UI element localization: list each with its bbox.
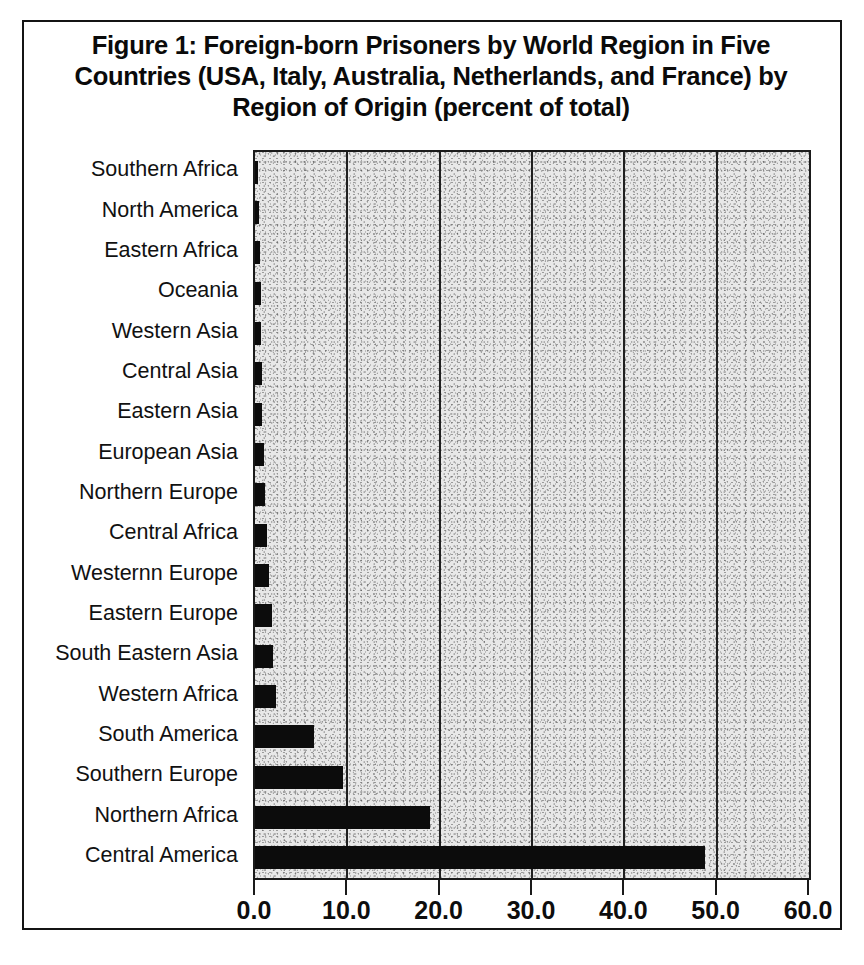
bar[interactable] [255, 766, 343, 789]
value-axis: 0.010.020.030.040.050.060.0 [253, 880, 813, 926]
bar[interactable] [255, 161, 258, 184]
bar[interactable] [255, 362, 262, 385]
category-label: Central Asia [18, 361, 238, 383]
category-label: European Asia [18, 442, 238, 464]
bar[interactable] [255, 725, 314, 748]
category-label: Western Africa [18, 684, 238, 706]
bar-row [255, 475, 809, 515]
axis-tick-label: 40.0 [578, 896, 668, 925]
bar[interactable] [255, 846, 705, 869]
category-label: South America [18, 724, 238, 746]
axis-tick-label: 30.0 [486, 896, 576, 925]
category-label: Central America [18, 845, 238, 867]
chart-body: Southern AfricaNorth AmericaEastern Afri… [24, 130, 840, 928]
bar-row [255, 394, 809, 434]
category-label: Central Africa [18, 522, 238, 544]
category-label: Eastern Europe [18, 603, 238, 625]
bar[interactable] [255, 685, 276, 708]
bar-row [255, 434, 809, 474]
page-title: Figure 1: Foreign-born Prisoners by Worl… [36, 30, 826, 123]
bar[interactable] [255, 806, 430, 829]
bar[interactable] [255, 322, 261, 345]
bar[interactable] [255, 241, 260, 264]
bar-row [255, 313, 809, 353]
axis-tick [530, 880, 532, 895]
bar-row [255, 515, 809, 555]
axis-tick-label: 20.0 [394, 896, 484, 925]
category-label: Northern Africa [18, 805, 238, 827]
category-axis: Southern AfricaNorth AmericaEastern Afri… [24, 150, 246, 880]
axis-tick [715, 880, 717, 895]
axis-tick-label: 0.0 [209, 896, 299, 925]
category-label: Southern Europe [18, 764, 238, 786]
bar[interactable] [255, 443, 264, 466]
category-label: Western Asia [18, 321, 238, 343]
axis-tick [438, 880, 440, 895]
bar-row [255, 838, 809, 878]
bar-row [255, 636, 809, 676]
bar-row [255, 717, 809, 757]
axis-tick [622, 880, 624, 895]
bar[interactable] [255, 524, 267, 547]
category-label: Southern Africa [18, 159, 238, 181]
bar[interactable] [255, 604, 272, 627]
bar[interactable] [255, 282, 261, 305]
bar-row [255, 757, 809, 797]
figure-frame: Figure 1: Foreign-born Prisoners by Worl… [22, 20, 842, 930]
category-label: Eastern Africa [18, 240, 238, 262]
bar-row [255, 354, 809, 394]
bar-row [255, 797, 809, 837]
bar[interactable] [255, 483, 265, 506]
bar[interactable] [255, 645, 273, 668]
bar-row [255, 555, 809, 595]
axis-tick-label: 50.0 [671, 896, 761, 925]
category-label: Eastern Asia [18, 401, 238, 423]
category-label: Oceania [18, 280, 238, 302]
bar[interactable] [255, 564, 269, 587]
bar-row [255, 676, 809, 716]
axis-tick [253, 880, 255, 895]
plot-area [253, 150, 811, 880]
axis-tick-label: 60.0 [763, 896, 853, 925]
bar-row [255, 152, 809, 192]
bar-row [255, 273, 809, 313]
bar[interactable] [255, 403, 262, 426]
axis-tick [345, 880, 347, 895]
category-label: Northern Europe [18, 482, 238, 504]
category-label: South Eastern Asia [18, 643, 238, 665]
category-label: North America [18, 200, 238, 222]
bar-row [255, 596, 809, 636]
category-label: Westernn Europe [18, 563, 238, 585]
axis-tick-label: 10.0 [301, 896, 391, 925]
bar-row [255, 233, 809, 273]
axis-tick [807, 880, 809, 895]
bar[interactable] [255, 201, 259, 224]
bar-row [255, 192, 809, 232]
